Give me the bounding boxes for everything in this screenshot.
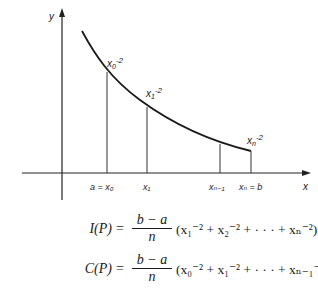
x-axis-arrow-icon [302, 170, 311, 176]
equals-sign: = [116, 261, 124, 277]
equals-sign: = [116, 221, 124, 237]
numerator: b − a [132, 252, 172, 269]
equation-lhs: I(P) [0, 221, 112, 237]
tick-label-x1: x₁ [142, 182, 151, 192]
tick-label-a-x0: a = x₀ [90, 182, 114, 192]
fraction: b − a n [132, 212, 172, 245]
denominator: n [132, 269, 172, 285]
label-x0-inv-sq: x0-2 [106, 56, 124, 70]
label-xn-inv-sq: xn-2 [246, 133, 264, 147]
equation-lower-sum: I(P) = b − a n (x₁⁻² + x₂⁻² + · · · + xₙ… [0, 212, 318, 248]
equation-rhs: (x₁⁻² + x₂⁻² + · · · + xₙ⁻²), [176, 221, 318, 238]
svg-text:x0-2: x0-2 [106, 56, 124, 70]
equation-lhs: C(P) [0, 261, 112, 277]
y-axis-arrow-icon [59, 8, 65, 17]
denominator: n [132, 229, 172, 245]
equation-rhs: (x₀⁻² + x₁⁻² + · · · + xₙ₋₁⁻²). [176, 261, 318, 278]
tick-label-xn-b: xₙ = b [238, 182, 262, 192]
tick-label-xn-minus-1: xₙ₋₁ [208, 182, 225, 192]
svg-text:x1-2: x1-2 [145, 86, 163, 100]
y-axis-label: y [48, 11, 55, 22]
svg-text:xn-2: xn-2 [246, 133, 264, 147]
equation-upper-sum: C(P) = b − a n (x₀⁻² + x₁⁻² + · · · + xₙ… [0, 252, 318, 288]
numerator: b − a [132, 212, 172, 229]
graph: y x x0-2 x1-2 xn-2 a = x₀ x₁ xₙ₋₁ xₙ = b [0, 0, 318, 220]
fraction: b − a n [132, 252, 172, 285]
label-x1-inv-sq: x1-2 [145, 86, 163, 100]
x-axis-label: x [302, 181, 309, 192]
